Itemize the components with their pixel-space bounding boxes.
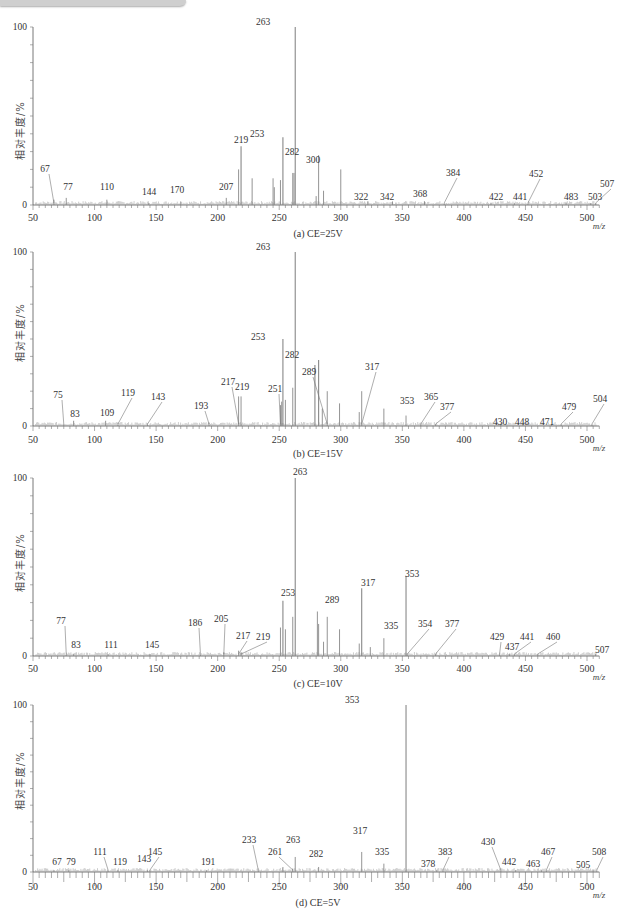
xtick-label: 450 <box>518 881 533 892</box>
xtick-label: 300 <box>333 881 348 892</box>
peak-label: 83 <box>70 409 80 419</box>
peak-label: 342 <box>380 192 395 202</box>
peak-label: 507 <box>600 179 615 189</box>
peak-label: 383 <box>438 847 453 857</box>
peak-label: 219 <box>256 632 271 642</box>
ytick-label: 0 <box>22 200 27 210</box>
peak-label: 317 <box>353 826 368 836</box>
peak-label: 263 <box>256 242 271 252</box>
peak-label: 483 <box>564 192 579 202</box>
peak-label: 77 <box>63 182 73 192</box>
spectrum-d: 010050100150200250300350400450500m/z6779… <box>13 695 607 900</box>
peak-label: 335 <box>384 621 399 631</box>
spectrum-c: 010050100150200250300350400450500m/z7783… <box>13 467 610 682</box>
peak-label: 471 <box>540 417 555 427</box>
peak-label: 145 <box>148 847 163 857</box>
xtick-label: 50 <box>28 434 38 445</box>
xtick-label: 200 <box>210 663 225 674</box>
xtick-label: 100 <box>87 434 102 445</box>
ytick-label: 100 <box>13 473 28 483</box>
peak-label: 422 <box>489 192 504 202</box>
peak-label: 282 <box>285 147 300 157</box>
xtick-label: 250 <box>272 881 287 892</box>
peak-label: 67 <box>40 164 50 174</box>
xtick-label: 250 <box>272 212 287 223</box>
peak-label: 508 <box>592 847 607 857</box>
peak-label: 353 <box>400 396 415 406</box>
peak-label: 110 <box>100 182 114 192</box>
peak-label: 109 <box>100 408 115 418</box>
xtick-label: 100 <box>87 212 102 223</box>
peak-label: 83 <box>71 640 81 650</box>
peak-label: 505 <box>576 860 591 870</box>
peak-label: 354 <box>418 619 433 629</box>
peak-label: 77 <box>56 616 66 626</box>
xtick-label: 350 <box>395 434 410 445</box>
peak-label: 479 <box>562 402 577 412</box>
xtick-label: 250 <box>272 434 287 445</box>
peak-label: 263 <box>286 835 301 845</box>
peak-label: 145 <box>145 640 160 650</box>
peak-label: 317 <box>365 362 380 372</box>
peak-label: 441 <box>520 632 535 642</box>
peak-label: 186 <box>188 618 203 628</box>
xtick-label: 300 <box>333 212 348 223</box>
peak-label: 289 <box>325 595 340 605</box>
xtick-label: 250 <box>272 663 287 674</box>
xtick-label: 50 <box>28 212 38 223</box>
peak-label: 111 <box>93 847 107 857</box>
peak-label: 263 <box>293 467 308 477</box>
ytick-label: 0 <box>22 651 27 661</box>
peak-label: 437 <box>505 642 520 652</box>
xtick-label: 150 <box>149 434 164 445</box>
peak-label: 282 <box>309 849 324 859</box>
peak-label: 317 <box>361 578 376 588</box>
peak-label: 448 <box>515 417 530 427</box>
spectrum-b: 010050100150200250300350400450500m/z7583… <box>13 242 608 453</box>
ytick-label: 100 <box>13 247 28 257</box>
peak-label: 460 <box>546 632 561 642</box>
xtick-label: 150 <box>149 663 164 674</box>
peak-label: 368 <box>413 189 428 199</box>
peak-label: 217 <box>236 631 251 641</box>
xtick-label: 200 <box>210 881 225 892</box>
xtick-label: 450 <box>518 212 533 223</box>
xtick-label: 300 <box>333 663 348 674</box>
peak-label: 467 <box>541 847 556 857</box>
peak-label: 79 <box>66 857 76 867</box>
xtick-label: 50 <box>28 881 38 892</box>
peak-label: 219 <box>234 135 249 145</box>
xaxis-label: m/z <box>593 443 606 453</box>
peak-label: 253 <box>251 332 266 342</box>
peak-label: 207 <box>219 182 234 192</box>
peak-label: 217 <box>221 377 236 387</box>
peak-label: 75 <box>53 390 63 400</box>
peak-label: 261 <box>268 847 283 857</box>
peak-label: 503 <box>588 192 603 202</box>
peak-label: 365 <box>424 392 439 402</box>
peak-label: 193 <box>194 401 209 411</box>
xtick-label: 300 <box>333 434 348 445</box>
ytick-label: 100 <box>13 22 28 32</box>
spectra-plot-area: 010050100150200250300350400450500m/z6777… <box>0 0 626 922</box>
ytick-label: 0 <box>22 867 27 877</box>
xtick-label: 100 <box>87 663 102 674</box>
xaxis-label: m/z <box>593 672 606 682</box>
xtick-label: 400 <box>456 212 471 223</box>
peak-label: 289 <box>302 367 317 377</box>
peak-label: 219 <box>235 382 250 392</box>
peak-label: 377 <box>440 402 455 412</box>
xtick-label: 200 <box>210 434 225 445</box>
peak-label: 452 <box>529 169 544 179</box>
peak-label: 353 <box>345 695 360 705</box>
xtick-label: 150 <box>149 212 164 223</box>
peak-label: 300 <box>306 155 321 165</box>
peak-label: 67 <box>52 857 62 867</box>
peak-label: 441 <box>513 192 528 202</box>
peak-label: 384 <box>446 168 461 178</box>
peak-label: 253 <box>250 129 265 139</box>
spectrum-a: 010050100150200250300350400450500m/z6777… <box>13 17 615 231</box>
xtick-label: 400 <box>456 434 471 445</box>
peak-label: 253 <box>281 588 296 598</box>
peak-label: 429 <box>490 632 505 642</box>
